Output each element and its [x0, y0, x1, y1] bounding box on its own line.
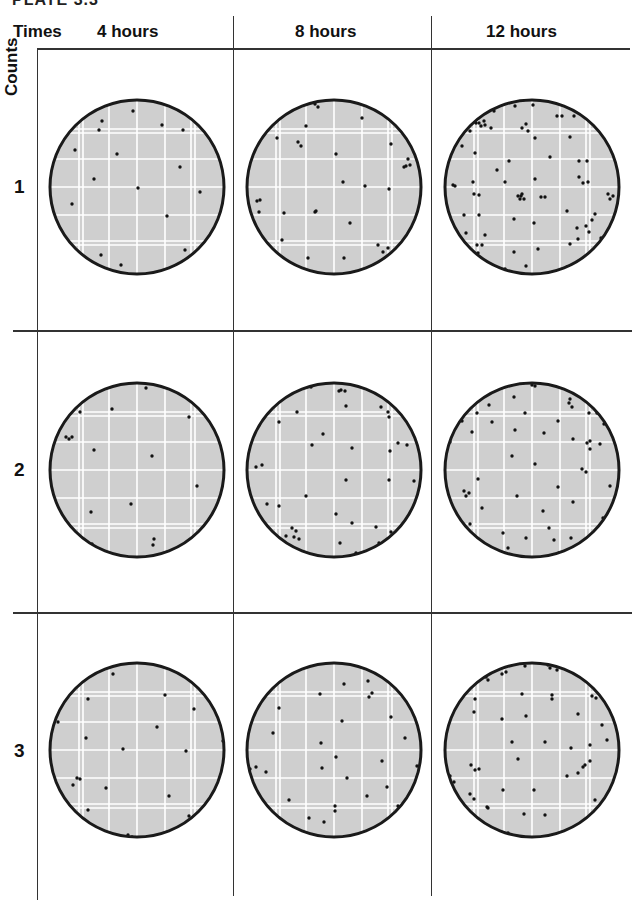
bacterial-colony — [567, 401, 570, 404]
bacterial-colony — [464, 494, 467, 497]
bacterial-colony — [318, 692, 321, 695]
bacterial-colony — [403, 736, 406, 739]
bacterial-colony — [499, 837, 502, 840]
bacterial-colony — [489, 126, 492, 129]
bacterial-colony — [341, 180, 344, 183]
bacterial-colony — [469, 763, 472, 766]
bacterial-colony — [532, 221, 535, 224]
bacterial-colony — [480, 243, 483, 246]
bacterial-colony — [406, 157, 409, 160]
bacterial-colony — [215, 511, 218, 514]
bacterial-colony — [475, 411, 478, 414]
petri-dish-grid — [0, 0, 638, 904]
bacterial-colony — [477, 835, 480, 838]
bacterial-colony — [343, 389, 346, 392]
bacterial-colony — [446, 804, 449, 807]
bacterial-colony — [535, 838, 538, 841]
bacterial-colony — [360, 116, 363, 119]
bacterial-colony — [516, 757, 519, 760]
bacterial-colony — [73, 148, 76, 151]
bacterial-colony — [506, 546, 509, 549]
petri-dish-row3-12-hours — [445, 663, 619, 861]
bacterial-colony — [121, 747, 124, 750]
bacterial-colony — [275, 136, 278, 139]
bacterial-colony — [568, 135, 571, 138]
bacterial-colony — [160, 123, 163, 126]
bacterial-colony — [329, 276, 332, 279]
bacterial-colony — [568, 397, 571, 400]
bacterial-colony — [345, 776, 348, 779]
bacterial-colony — [533, 580, 536, 583]
bacterial-colony — [471, 180, 474, 183]
bacterial-colony — [576, 771, 579, 774]
bacterial-colony — [470, 430, 473, 433]
bacterial-colony — [265, 502, 268, 505]
bacterial-colony — [510, 454, 513, 457]
bacterial-colony — [580, 467, 583, 470]
bacterial-colony — [501, 531, 504, 534]
bacterial-colony — [165, 214, 168, 217]
bacterial-colony — [97, 128, 100, 131]
bacterial-colony — [365, 794, 368, 797]
bacterial-colony — [260, 463, 263, 466]
bacterial-colony — [583, 831, 586, 834]
bacterial-colony — [483, 123, 486, 126]
bacterial-colony — [282, 211, 285, 214]
bacterial-colony — [344, 478, 347, 481]
bacterial-colony — [585, 441, 588, 444]
bacterial-colony — [144, 386, 147, 389]
bacterial-colony — [295, 410, 298, 413]
bacterial-colony — [255, 199, 258, 202]
bacterial-colony — [78, 410, 81, 413]
bacterial-colony — [516, 194, 519, 197]
bacterial-colony — [490, 420, 493, 423]
bacterial-colony — [367, 695, 370, 698]
bacterial-colony — [379, 405, 382, 408]
bacterial-colony — [555, 114, 558, 117]
bacterial-colony — [342, 256, 345, 259]
bacterial-colony — [504, 670, 507, 673]
bacterial-colony — [389, 715, 392, 718]
bacterial-colony — [547, 526, 550, 529]
bacterial-colony — [560, 114, 563, 117]
bacterial-colony — [387, 187, 390, 190]
bacterial-colony — [477, 193, 480, 196]
bacterial-colony — [310, 443, 313, 446]
bacterial-colony — [284, 534, 287, 537]
bacterial-colony — [396, 441, 399, 444]
bacterial-colony — [316, 105, 319, 108]
bacterial-colony — [119, 263, 122, 266]
bacterial-colony — [363, 184, 366, 187]
bacterial-colony — [299, 144, 302, 147]
bacterial-colony — [536, 247, 539, 250]
bacterial-colony — [472, 710, 475, 713]
bacterial-colony — [475, 829, 478, 832]
bacterial-colony — [483, 233, 486, 236]
bacterial-colony — [510, 740, 513, 743]
bacterial-colony — [389, 142, 392, 145]
bacterial-colony — [129, 502, 132, 505]
bacterial-colony — [577, 175, 580, 178]
bacterial-colony — [86, 808, 89, 811]
bacterial-colony — [473, 768, 476, 771]
bacterial-colony — [181, 128, 184, 131]
bacterial-colony — [277, 706, 280, 709]
bacterial-colony — [569, 536, 572, 539]
bacterial-colony — [56, 720, 59, 723]
bacterial-colony — [404, 164, 407, 167]
bacterial-colony — [84, 736, 87, 739]
bacterial-colony — [473, 151, 476, 154]
bacterial-colony — [115, 152, 118, 155]
petri-dish-row3-4-hours — [50, 663, 225, 842]
bacterial-colony — [294, 529, 297, 532]
bacterial-colony — [386, 410, 389, 413]
bacterial-colony — [527, 857, 530, 860]
bacterial-colony — [288, 666, 291, 669]
bacterial-colony — [338, 541, 341, 544]
bacterial-colony — [576, 712, 579, 715]
bacterial-colony — [348, 221, 351, 224]
bacterial-colony — [152, 537, 155, 540]
bacterial-colony — [495, 168, 498, 171]
bacterial-colony — [568, 242, 571, 245]
bacterial-colony — [584, 224, 587, 227]
